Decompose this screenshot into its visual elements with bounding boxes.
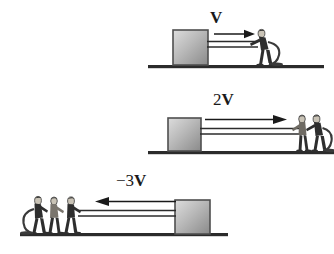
panel-one-scene: [0, 0, 334, 85]
panel-three-people: −3V: [0, 169, 334, 254]
person-figure: [250, 29, 283, 66]
block: [173, 30, 208, 65]
panel-two-scene: [0, 85, 334, 170]
rope-curl: [23, 209, 34, 233]
velocity-arrow-head: [244, 30, 255, 38]
person-figure: [46, 197, 64, 235]
physics-figure: V: [0, 0, 334, 254]
panel-one-person: V: [0, 0, 334, 85]
block: [175, 200, 210, 234]
person-figure: [20, 196, 50, 234]
panel-three-scene: [0, 169, 334, 254]
velocity-arrow-head: [273, 115, 287, 124]
velocity-arrow-head: [95, 197, 109, 206]
block: [168, 118, 201, 151]
person-figure: [306, 115, 334, 152]
panel-two-people: 2V: [0, 85, 334, 170]
